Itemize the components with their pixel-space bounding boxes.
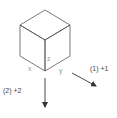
cube bbox=[20, 10, 70, 71]
step-2-label: (2) +2 bbox=[3, 87, 21, 94]
arrow-step-1 bbox=[72, 73, 96, 86]
axis-label-z: z bbox=[47, 55, 51, 62]
cube-diagram bbox=[0, 0, 117, 118]
axis-label-y: y bbox=[59, 67, 63, 74]
step-1-label: (1) +1 bbox=[90, 65, 108, 72]
cube-right-face bbox=[45, 25, 70, 71]
cube-left-face bbox=[20, 25, 45, 71]
cube-top-face bbox=[20, 10, 70, 40]
axis-label-x: x bbox=[28, 65, 32, 72]
